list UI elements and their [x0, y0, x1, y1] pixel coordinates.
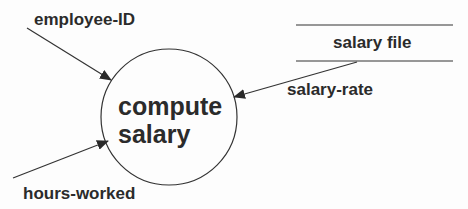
process-label-line1: compute [118, 92, 258, 120]
process-label-line2: salary [118, 120, 258, 148]
hours-worked-arrow [13, 141, 108, 178]
process-label: compute salary [118, 92, 258, 148]
employee-id-arrow [27, 28, 111, 80]
data-store-label: salary file [333, 33, 411, 53]
dfd-diagram: employee-ID salary file salary-rate hour… [0, 0, 468, 209]
flow-label-employee-id: employee-ID [34, 10, 135, 30]
flow-label-hours-worked: hours-worked [23, 184, 135, 204]
flow-label-salary-rate: salary-rate [287, 80, 373, 100]
